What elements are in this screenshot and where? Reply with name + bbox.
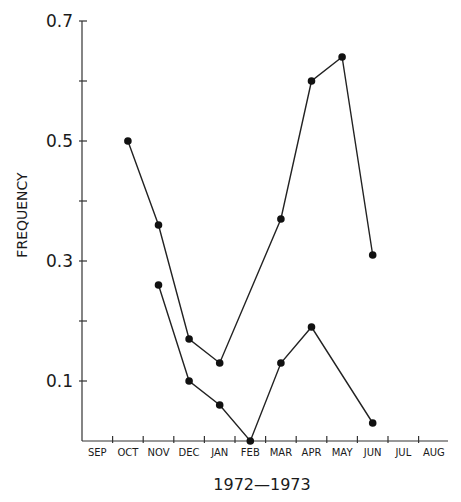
data-point <box>155 281 163 289</box>
series-line <box>128 57 373 363</box>
data-point <box>185 377 193 385</box>
y-tick-label: 0.3 <box>46 251 73 271</box>
data-point <box>277 215 285 223</box>
data-point <box>216 359 224 367</box>
x-tick-label: JUL <box>394 447 411 458</box>
series-layer <box>124 53 376 445</box>
x-tick-label: JUN <box>363 447 382 458</box>
data-point <box>277 359 285 367</box>
data-point <box>369 419 377 427</box>
x-tick-label: AUG <box>423 447 445 458</box>
x-axis: SEPOCTNOVDECJANFEBMARAPRMAYJUNJULAUG <box>82 436 448 458</box>
y-tick-label: 0.5 <box>46 131 73 151</box>
data-point <box>338 53 346 61</box>
x-tick-label: MAY <box>332 447 354 458</box>
data-point <box>185 335 193 343</box>
data-point <box>155 221 163 229</box>
data-point <box>369 251 377 259</box>
series-line <box>159 285 373 441</box>
x-tick-label: FEB <box>241 447 260 458</box>
data-point <box>308 323 316 331</box>
x-tick-label: DEC <box>179 447 200 458</box>
frequency-line-chart: 0.10.30.50.7 SEPOCTNOVDECJANFEBMARAPRMAY… <box>0 0 461 502</box>
data-point <box>124 137 132 145</box>
y-tick-label: 0.7 <box>46 11 73 31</box>
x-tick-label: MAR <box>270 447 292 458</box>
y-axis: 0.10.30.50.7 <box>46 11 87 441</box>
x-tick-label: OCT <box>117 447 139 458</box>
data-point <box>308 77 316 85</box>
y-axis-title: FREQUENCY <box>14 172 30 258</box>
x-tick-label: NOV <box>147 447 169 458</box>
data-point <box>247 437 255 445</box>
x-tick-label: SEP <box>88 447 107 458</box>
series-1 <box>124 53 376 367</box>
x-tick-label: APR <box>302 447 322 458</box>
series-2 <box>155 281 377 445</box>
x-tick-label: JAN <box>210 447 228 458</box>
x-axis-title: 1972—1973 <box>213 475 310 494</box>
y-tick-label: 0.1 <box>46 371 73 391</box>
data-point <box>216 401 224 409</box>
